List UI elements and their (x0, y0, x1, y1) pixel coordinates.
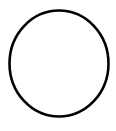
circle-outline-shape (10, 11, 109, 117)
shape-layer (0, 0, 116, 131)
drawing-canvas (0, 0, 116, 131)
